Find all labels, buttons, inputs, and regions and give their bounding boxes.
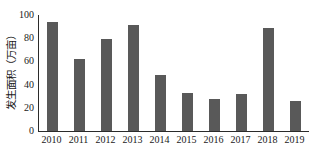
x-axis-tick-label: 2017	[227, 134, 254, 145]
x-axis-tick-label: 2019	[281, 134, 308, 145]
y-axis-tick-label: 100	[10, 10, 34, 20]
bar[interactable]	[155, 75, 166, 131]
y-axis-tick-label: 60	[10, 56, 34, 66]
bar[interactable]	[209, 99, 220, 131]
x-axis-tick-label: 2012	[92, 134, 119, 145]
bar-slot	[201, 15, 228, 131]
y-axis-tick-label: 80	[10, 33, 34, 43]
bar[interactable]	[128, 25, 139, 131]
bar-slot	[255, 15, 282, 131]
bar[interactable]	[74, 59, 85, 131]
bar-slot	[39, 15, 66, 131]
x-axis-tick-label: 2013	[119, 134, 146, 145]
y-axis-tick-labels: 020406080100	[8, 0, 34, 156]
x-axis-tick-label: 2018	[254, 134, 281, 145]
x-axis-tick-label: 2011	[65, 134, 92, 145]
bar[interactable]	[290, 101, 301, 131]
bar[interactable]	[236, 94, 247, 131]
x-axis-tick-label: 2015	[173, 134, 200, 145]
y-axis-tick-label: 40	[10, 80, 34, 90]
bar-chart-figure: 发生面积（万亩） 020406080100 201020112012201320…	[0, 0, 313, 156]
y-axis-tick-label: 20	[10, 103, 34, 113]
bar-slot	[228, 15, 255, 131]
x-axis-tick-label: 2014	[146, 134, 173, 145]
x-axis-tick-label: 2010	[38, 134, 65, 145]
bar-slot	[282, 15, 309, 131]
bar-slot	[174, 15, 201, 131]
bar-series	[39, 15, 309, 131]
plot-area	[38, 15, 309, 132]
y-axis-tick-label: 0	[10, 126, 34, 136]
bar-slot	[120, 15, 147, 131]
bar-slot	[93, 15, 120, 131]
bar[interactable]	[101, 39, 112, 131]
bar-slot	[147, 15, 174, 131]
bar-slot	[66, 15, 93, 131]
bar[interactable]	[263, 28, 274, 131]
bar[interactable]	[47, 22, 58, 131]
bar[interactable]	[182, 93, 193, 131]
x-axis-tick-labels: 2010201120122013201420152016201720182019	[38, 134, 308, 145]
x-axis-tick-label: 2016	[200, 134, 227, 145]
